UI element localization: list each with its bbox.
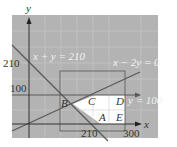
shaded-region xyxy=(12,15,158,138)
x-tick-210: 210 xyxy=(81,127,98,139)
label-y-100: y = 100 xyxy=(127,94,163,106)
label-x-plus-y-210: x + y = 210 xyxy=(32,50,86,62)
label-x-minus-2y-0: x − 2y = 0 xyxy=(112,56,160,68)
y-tick-100: 100 xyxy=(10,82,27,94)
vertex-label-b: B xyxy=(61,97,68,109)
vertex-label-a: A xyxy=(98,111,106,123)
vertex-label-d: D xyxy=(115,95,124,107)
vertex-label-c: C xyxy=(88,95,96,107)
feasible-region-diagram: y x 210 100 210 300 x + y = 210 x − 2y =… xyxy=(0,0,177,147)
x-tick-300: 300 xyxy=(123,127,140,139)
x-axis-label: x xyxy=(143,118,149,130)
vertex-label-e: E xyxy=(115,111,123,123)
y-tick-210: 210 xyxy=(3,57,20,69)
y-axis-label: y xyxy=(25,2,31,14)
